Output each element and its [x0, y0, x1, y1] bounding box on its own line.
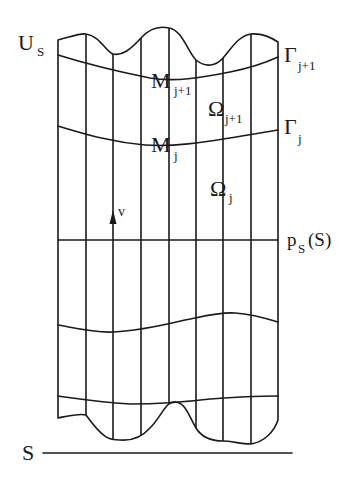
svg-text:j: j — [173, 148, 178, 163]
svg-text:j: j — [297, 131, 302, 146]
label-omega-j: Ω j — [210, 176, 233, 205]
svg-text:Ω: Ω — [208, 96, 224, 121]
svg-text:S: S — [37, 44, 44, 59]
svg-text:U: U — [18, 30, 34, 55]
label-projection: p S (S) — [287, 229, 331, 256]
svg-text:j+1: j+1 — [297, 58, 315, 73]
label-m-j-plus-1: M j+1 — [151, 68, 191, 98]
svg-text:j+1: j+1 — [173, 83, 191, 98]
label-gamma-j: Γ j — [284, 114, 302, 146]
svg-text:Γ: Γ — [284, 42, 297, 67]
svg-text:S: S — [298, 241, 305, 256]
svg-text:j: j — [228, 190, 233, 205]
label-omega-j-plus-1: Ω j+1 — [208, 96, 242, 126]
svg-text:Γ: Γ — [284, 114, 297, 139]
svg-text:Ω: Ω — [210, 176, 226, 201]
lower-curve-1 — [58, 313, 278, 332]
label-base-s: S — [22, 440, 34, 465]
svg-text:p: p — [287, 229, 297, 250]
velocity-arrow — [110, 210, 117, 224]
svg-text:M: M — [151, 68, 171, 93]
svg-text:M: M — [151, 132, 171, 157]
neighborhood-diagram: U S Γ j+1 Γ j M j+1 M j Ω j+1 Ω j v p S … — [0, 0, 354, 482]
svg-text:j+1: j+1 — [224, 111, 242, 126]
svg-text:(S): (S) — [308, 229, 331, 251]
label-gamma-j-plus-1: Γ j+1 — [284, 42, 315, 73]
lower-curve-2 — [58, 396, 278, 404]
label-u-s: U S — [18, 30, 44, 59]
label-m-j: M j — [151, 132, 178, 163]
label-v: v — [118, 204, 125, 219]
